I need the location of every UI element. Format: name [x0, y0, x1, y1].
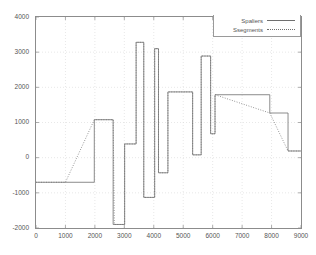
data-series-layer [36, 17, 301, 228]
legend-sample-solid-icon [267, 20, 295, 21]
x-tick-label: 6000 [198, 233, 228, 240]
y-tick-label: -2000 [0, 225, 29, 232]
y-tick-label: 4000 [0, 14, 29, 21]
x-tick-label: 8000 [257, 233, 287, 240]
y-tick-label: 0 [0, 154, 29, 161]
y-tick-label: 1000 [0, 119, 29, 126]
y-tick-label: 3000 [0, 49, 29, 56]
chart-root: -2000-100001000200030004000 010002000300… [0, 0, 316, 255]
x-tick-label: 7000 [227, 233, 257, 240]
x-tick-label: 9000 [286, 233, 316, 240]
y-tick-label: -1000 [0, 190, 29, 197]
chart-legend: Spaliers Ssegments [213, 15, 301, 37]
legend-item-spaliers: Spaliers [214, 16, 300, 25]
legend-item-ssegments: Ssegments [214, 25, 300, 34]
x-tick-label: 4000 [139, 233, 169, 240]
plot-area [35, 16, 302, 229]
x-tick-label: 2000 [80, 233, 110, 240]
y-tick-label: 2000 [0, 84, 29, 91]
legend-sample-dotted-icon [267, 29, 295, 30]
x-tick-label: 3000 [109, 233, 139, 240]
x-tick-label: 1000 [50, 233, 80, 240]
x-tick-label: 0 [21, 233, 51, 240]
legend-label-spaliers: Spaliers [241, 18, 263, 24]
legend-label-ssegments: Ssegments [233, 27, 263, 33]
x-tick-label: 5000 [168, 233, 198, 240]
